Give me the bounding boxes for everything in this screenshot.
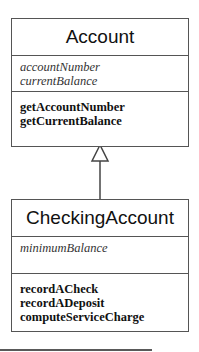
- method: getAccountNumber: [20, 100, 188, 114]
- generalization-arrow-icon: [92, 145, 108, 161]
- class-name: Account: [12, 19, 188, 56]
- class-checking-account: CheckingAccount minimumBalance recordACh…: [11, 199, 189, 332]
- attribute: currentBalance: [20, 74, 188, 88]
- method: recordADeposit: [20, 296, 188, 310]
- class-account: Account accountNumber currentBalance get…: [11, 18, 189, 147]
- attribute: accountNumber: [20, 60, 188, 74]
- methods-section: recordACheck recordADeposit computeServi…: [12, 274, 188, 324]
- methods-section: getAccountNumber getCurrentBalance: [12, 92, 188, 128]
- class-name-text: Account: [66, 26, 135, 48]
- attributes-section: minimumBalance: [12, 237, 188, 274]
- method: recordACheck: [20, 282, 188, 296]
- attributes-section: accountNumber currentBalance: [12, 56, 188, 92]
- class-name-text: CheckingAccount: [26, 207, 174, 229]
- method: getCurrentBalance: [20, 114, 188, 128]
- attribute: minimumBalance: [20, 241, 188, 255]
- class-name: CheckingAccount: [12, 200, 188, 237]
- method: computeServiceCharge: [20, 310, 188, 324]
